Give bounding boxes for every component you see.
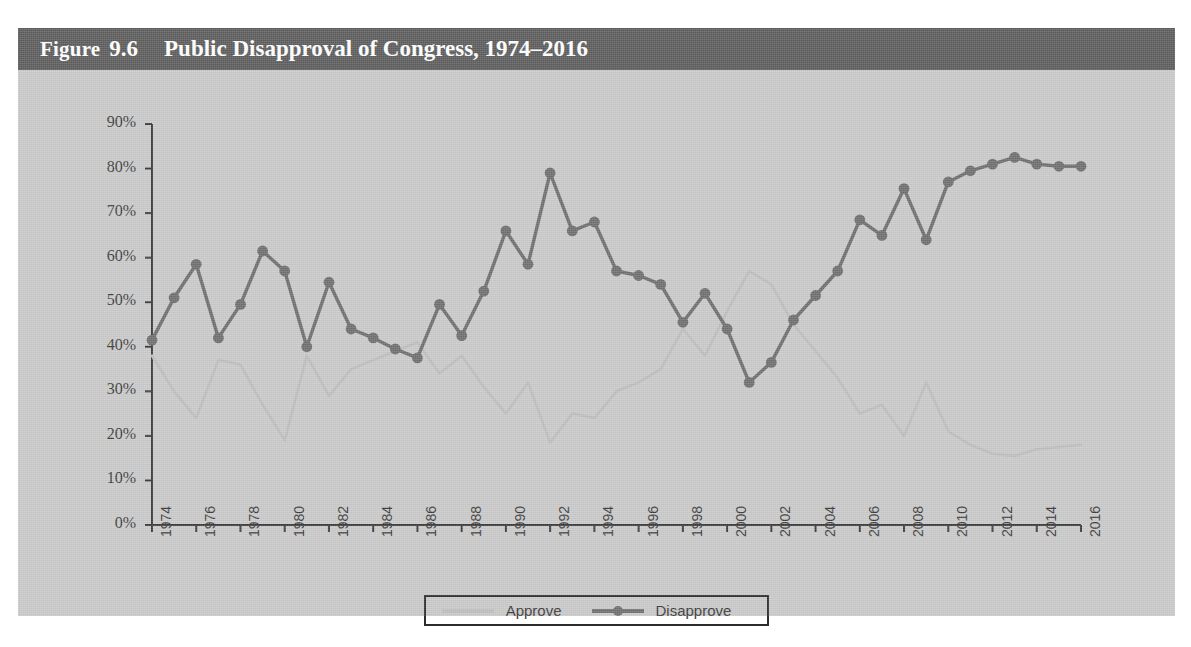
x-tick-label: 2010 xyxy=(954,506,970,537)
legend-label-disapprove: Disapprove xyxy=(656,602,732,619)
chart-legend: Approve Disapprove xyxy=(424,595,770,626)
y-tick-label: 60% xyxy=(84,247,136,265)
y-tick-label: 40% xyxy=(84,336,136,354)
x-tick-label: 2000 xyxy=(733,506,749,537)
x-tick-label: 1998 xyxy=(689,506,705,537)
x-tick-label: 2006 xyxy=(866,506,882,537)
x-tick-label: 1974 xyxy=(158,506,174,537)
x-tick-label: 1980 xyxy=(291,506,307,537)
x-tick-label: 1984 xyxy=(379,506,395,537)
y-tick-label: 70% xyxy=(84,202,136,220)
chart-axes xyxy=(145,124,1081,532)
figure-number: 9.6 xyxy=(109,36,138,62)
y-tick-label: 10% xyxy=(84,469,136,487)
y-tick-label: 90% xyxy=(84,113,136,131)
figure-label: Figure xyxy=(40,37,100,62)
x-tick-label: 1994 xyxy=(600,506,616,537)
legend-item-approve[interactable]: Approve xyxy=(440,602,584,619)
chart-series xyxy=(147,152,1087,456)
x-tick-label: 1992 xyxy=(556,506,572,537)
figure-title-bar: Figure 9.6 Public Disapproval of Congres… xyxy=(18,28,1175,70)
legend-label-approve: Approve xyxy=(506,602,562,619)
x-tick-label: 1982 xyxy=(335,506,351,537)
legend-swatch-disapprove xyxy=(590,604,646,618)
x-tick-label: 1996 xyxy=(645,506,661,537)
legend-swatch-approve xyxy=(440,604,496,618)
x-tick-label: 2014 xyxy=(1043,506,1059,537)
x-tick-label: 2002 xyxy=(777,506,793,537)
figure-title: Public Disapproval of Congress, 1974–201… xyxy=(164,36,588,62)
y-tick-label: 30% xyxy=(84,380,136,398)
x-tick-label: 2008 xyxy=(910,506,926,537)
x-tick-label: 1976 xyxy=(202,506,218,537)
x-tick-label: 2012 xyxy=(999,506,1015,537)
x-tick-label: 1986 xyxy=(423,506,439,537)
y-tick-label: 50% xyxy=(84,291,136,309)
x-tick-label: 1990 xyxy=(512,506,528,537)
x-tick-label: 2016 xyxy=(1087,506,1103,537)
chart-panel: 0%10%20%30%40%50%60%70%80%90% 1974197619… xyxy=(18,70,1175,616)
x-tick-label: 1988 xyxy=(468,506,484,537)
x-tick-label: 2004 xyxy=(822,506,838,537)
legend-item-disapprove[interactable]: Disapprove xyxy=(590,602,754,619)
x-tick-label: 1978 xyxy=(246,506,262,537)
y-tick-label: 0% xyxy=(84,514,136,532)
y-tick-label: 80% xyxy=(84,158,136,176)
figure-container: Figure 9.6 Public Disapproval of Congres… xyxy=(18,28,1175,616)
y-tick-label: 20% xyxy=(84,425,136,443)
